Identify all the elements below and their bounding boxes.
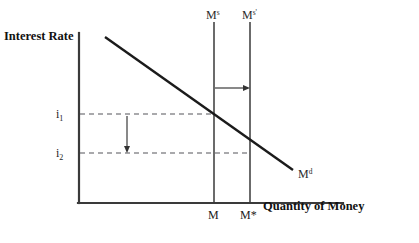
money-market-diagram: Interest Rate Quantity of Money Ms Ms' M… bbox=[0, 0, 419, 243]
money-demand-label-base: M bbox=[298, 167, 309, 181]
money-supply-label-initial-sup: s bbox=[217, 8, 220, 17]
money-supply-label-initial-base: M bbox=[206, 8, 217, 22]
x-tick-label-m: M bbox=[208, 208, 219, 222]
y-tick-label-i1-sub: 1 bbox=[59, 114, 63, 123]
x-tick-label-m-star: M* bbox=[240, 208, 257, 222]
money-supply-label-new-base: M bbox=[242, 8, 253, 22]
y-axis-title: Interest Rate bbox=[4, 29, 74, 43]
money-supply-label-new-sup: s' bbox=[253, 8, 258, 17]
y-tick-label-i2-sub: 2 bbox=[59, 153, 63, 162]
money-demand-label-sup: d bbox=[309, 167, 313, 176]
x-axis-title: Quantity of Money bbox=[263, 199, 365, 213]
